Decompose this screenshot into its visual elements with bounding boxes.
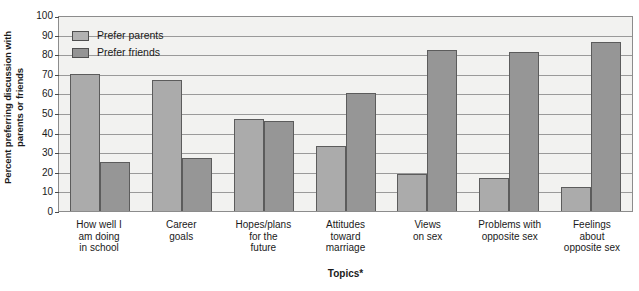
- y-tick-label-100: 100: [36, 11, 53, 21]
- x-category-label: Problems withopposite sex: [469, 216, 551, 268]
- bar-parents: [561, 187, 591, 211]
- x-category-label-line: opposite sex: [551, 242, 633, 254]
- y-axis-title: Percent preferring discussion with paren…: [0, 0, 26, 215]
- x-category-label-line: goals: [140, 231, 222, 243]
- legend-label-friends: Prefer friends: [97, 47, 160, 58]
- y-tick-label-20: 20: [42, 168, 53, 178]
- x-category-label: Hopes/plansfor thefuture: [222, 216, 304, 268]
- bar-friends: [264, 121, 294, 211]
- x-axis-title: Topics*: [58, 268, 633, 279]
- bar-parents: [479, 178, 509, 211]
- bar-parents: [152, 80, 182, 211]
- bar-friends: [100, 162, 130, 211]
- legend-item-prefer-friends: Prefer friends: [72, 45, 164, 60]
- x-category-label-line: future: [222, 242, 304, 254]
- y-tick-label-50: 50: [42, 109, 53, 119]
- legend: Prefer parents Prefer friends: [72, 28, 164, 62]
- bar-group: [468, 17, 550, 211]
- y-tick-label-40: 40: [42, 129, 53, 139]
- bar-group: [223, 17, 305, 211]
- bar-group: [550, 17, 632, 211]
- y-axis-tick-labels: 0102030405060708090100: [26, 10, 56, 215]
- legend-item-prefer-parents: Prefer parents: [72, 28, 164, 43]
- x-category-label-line: Hopes/plans: [222, 219, 304, 231]
- bar-friends: [591, 42, 621, 211]
- y-tick-label-30: 30: [42, 148, 53, 158]
- bar-parents: [397, 174, 427, 211]
- x-category-label: How well Iam doingin school: [58, 216, 140, 268]
- y-tick-label-90: 90: [42, 31, 53, 41]
- x-axis-category-labels: How well Iam doingin schoolCareergoalsHo…: [58, 216, 633, 268]
- bar-group: [305, 17, 387, 211]
- x-category-label: Attitudestowardmarriage: [304, 216, 386, 268]
- y-tick-label-60: 60: [42, 89, 53, 99]
- y-tick-label-80: 80: [42, 50, 53, 60]
- legend-swatch-friends: [72, 48, 89, 58]
- x-category-label: Viewson sex: [387, 216, 469, 268]
- y-axis-title-line-2: parents or friends: [13, 31, 25, 184]
- x-category-label-line: about: [551, 231, 633, 243]
- y-axis-title-line-1: Percent preferring discussion with: [2, 31, 14, 184]
- y-tick-label-10: 10: [42, 187, 53, 197]
- bar-parents: [70, 74, 100, 211]
- x-category-label-line: Career: [140, 219, 222, 231]
- x-category-label-line: How well I: [58, 219, 140, 231]
- legend-label-parents: Prefer parents: [97, 30, 164, 41]
- x-category-label-line: Problems with: [469, 219, 551, 231]
- bar-friends: [509, 52, 539, 211]
- x-category-label-line: Feelings: [551, 219, 633, 231]
- y-tick-label-0: 0: [47, 207, 53, 217]
- bar-friends: [427, 50, 457, 211]
- x-category-label-line: opposite sex: [469, 231, 551, 243]
- bar-parents: [234, 119, 264, 211]
- x-category-label-line: Attitudes: [304, 219, 386, 231]
- bar-friends: [182, 158, 212, 211]
- legend-swatch-parents: [72, 31, 89, 41]
- bar-friends: [346, 93, 376, 211]
- x-category-label-line: on sex: [387, 231, 469, 243]
- x-category-label-line: marriage: [304, 242, 386, 254]
- x-category-label-line: for the: [222, 231, 304, 243]
- x-category-label-line: toward: [304, 231, 386, 243]
- x-category-label-line: am doing: [58, 231, 140, 243]
- bar-chart: Percent preferring discussion with paren…: [0, 0, 639, 291]
- x-category-label: Careergoals: [140, 216, 222, 268]
- bar-parents: [316, 146, 346, 211]
- bar-group: [386, 17, 468, 211]
- x-category-label-line: Views: [387, 219, 469, 231]
- x-category-label: Feelingsaboutopposite sex: [551, 216, 633, 268]
- y-tickmark-0: [55, 212, 59, 213]
- y-tick-label-70: 70: [42, 70, 53, 80]
- x-category-label-line: in school: [58, 242, 140, 254]
